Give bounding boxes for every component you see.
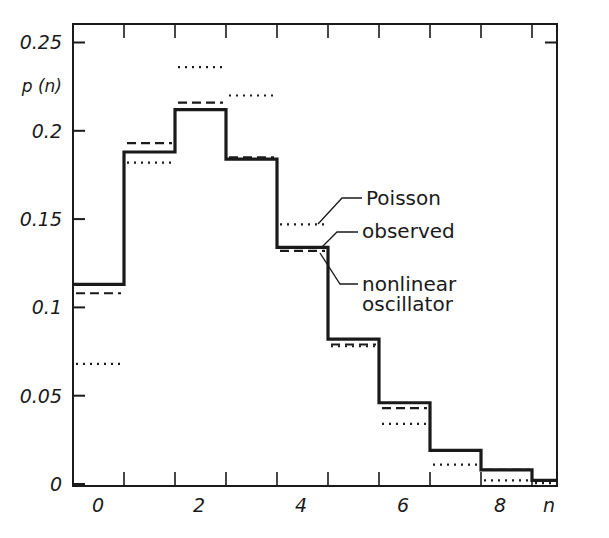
y-tick-0: 0 (50, 473, 62, 495)
series-layer (73, 67, 557, 483)
annot-oscillator: oscillator (362, 292, 454, 316)
plot-frame (73, 24, 557, 486)
probability-distribution-chart: 0.25 p (n) 0.2 0.15 0.1 0.05 0 0 2 4 6 8… (0, 0, 609, 538)
y-tick-0.05: 0.05 (20, 385, 62, 407)
y-tick-0.2: 0.2 (32, 120, 62, 142)
x-tick-4: 4 (295, 494, 307, 516)
annotations: Poisson observed nonlinear oscillator (318, 186, 457, 316)
x-tick-0: 0 (92, 494, 104, 516)
x-axis-title: n (543, 494, 555, 516)
leader-observed (322, 232, 358, 247)
leader-nonlinear (320, 253, 358, 284)
y-tick-0.1: 0.1 (32, 296, 62, 318)
leader-poisson (318, 198, 362, 224)
annot-observed: observed (362, 219, 455, 243)
y-tick-0.15: 0.15 (20, 208, 62, 230)
annot-poisson: Poisson (366, 186, 441, 210)
y-axis-title: p (n) (21, 76, 62, 96)
x-tick-6: 6 (397, 494, 409, 516)
x-tick-2: 2 (193, 494, 205, 516)
series-observed-step (73, 110, 557, 481)
y-tick-0.25: 0.25 (20, 31, 62, 53)
axis-ticks (73, 24, 557, 486)
x-tick-8: 8 (494, 494, 506, 516)
